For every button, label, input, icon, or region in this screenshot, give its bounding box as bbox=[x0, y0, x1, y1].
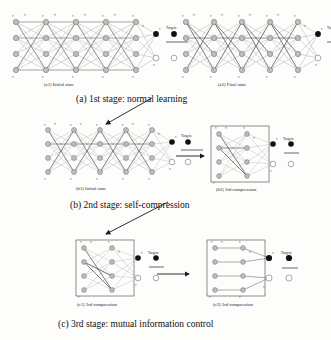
panel-a1-caption: (a1) Initial state bbox=[44, 83, 74, 88]
node-label: v bbox=[182, 75, 184, 79]
node-label: v bbox=[72, 75, 74, 79]
weight-label: w bbox=[105, 121, 109, 126]
target-nodes bbox=[327, 31, 331, 61]
node-label: v bbox=[238, 75, 240, 79]
weight-label: w bbox=[117, 249, 121, 254]
output-nodes bbox=[169, 139, 175, 165]
weight-label: w bbox=[131, 121, 135, 126]
node-label: v bbox=[213, 181, 215, 185]
node-label: v bbox=[70, 177, 72, 181]
node-label: v bbox=[148, 177, 150, 181]
nodes bbox=[46, 128, 155, 175]
weight-label: w bbox=[53, 121, 57, 126]
panel-a1: w w w w w v v v v v v v v v v v v Target… bbox=[6, 8, 164, 80]
targets-label: Targets bbox=[327, 26, 331, 30]
figure-root: w w w w w v v v v v v v v v v v v Target… bbox=[0, 0, 331, 340]
node-label: v bbox=[266, 14, 268, 18]
node-label: v bbox=[294, 14, 296, 18]
node-label: v bbox=[211, 240, 213, 244]
node-label: v bbox=[210, 75, 212, 79]
panel-b1: w w w w w v v v v v v v v v v v v Target… bbox=[40, 118, 190, 184]
node-label: v bbox=[210, 14, 212, 18]
node-label: v bbox=[315, 63, 317, 67]
panel-b2: w w v v v v v Targets bbox=[207, 120, 303, 186]
output-nodes bbox=[135, 255, 141, 281]
node-label: v bbox=[102, 14, 104, 18]
panel-b2-caption: (b2) 3rd compression bbox=[216, 188, 256, 193]
weight-label: w bbox=[220, 12, 224, 17]
targets-label: Targets bbox=[166, 26, 177, 30]
panel-c1-network: w w v v v v v Targets bbox=[72, 234, 168, 300]
node-label: v bbox=[70, 123, 72, 127]
node-label: v bbox=[80, 240, 82, 244]
node-label: v bbox=[276, 137, 278, 141]
node-labels: v v v v v v v v v v v v bbox=[182, 14, 323, 79]
node-label: v bbox=[44, 177, 46, 181]
node-label: v bbox=[141, 251, 143, 255]
node-label: v bbox=[239, 240, 241, 244]
nodes bbox=[213, 246, 246, 293]
panel-a2: w w w w w v v v v v v v v v v v v Target… bbox=[178, 8, 328, 80]
labels: w w v v v v v Targets bbox=[213, 125, 294, 185]
arrow-b1-to-b2 bbox=[176, 150, 210, 162]
weight-label: w bbox=[83, 12, 87, 17]
node-label: v bbox=[243, 126, 245, 130]
node-label: v bbox=[96, 123, 98, 127]
node-label: v bbox=[153, 63, 155, 67]
panel-a2-caption: (a2) Final state bbox=[218, 83, 246, 88]
node-label: v bbox=[270, 169, 272, 173]
targets-label: Targets bbox=[283, 137, 294, 141]
target-nodes bbox=[282, 255, 298, 281]
node-label: v bbox=[132, 75, 134, 79]
targets-label: Targets bbox=[181, 134, 192, 138]
weight-label: w bbox=[276, 12, 280, 17]
panel-c1: w w v v v v v Targets bbox=[72, 234, 168, 300]
edges-light bbox=[48, 130, 172, 172]
edges-dark bbox=[16, 22, 136, 70]
node-label: v bbox=[215, 126, 217, 130]
edges-light bbox=[219, 134, 273, 176]
targets-label: Targets bbox=[281, 251, 292, 255]
panel-b2-network: w w v v v v v Targets bbox=[207, 120, 303, 186]
nodes bbox=[183, 19, 300, 72]
arrow-stage2-to-stage3 bbox=[96, 200, 174, 238]
edges-light bbox=[186, 22, 318, 70]
output-nodes bbox=[266, 255, 272, 281]
weight-label: w bbox=[248, 12, 252, 17]
node-label: v bbox=[182, 14, 184, 18]
node-label: v bbox=[122, 177, 124, 181]
panel-c1-caption: (c1) 3rd compression bbox=[77, 303, 117, 308]
panel-b1-caption: (b1) Initial state bbox=[76, 187, 106, 192]
panel-c2-network: w w v v v v v v Targets bbox=[203, 234, 303, 300]
weight-label: w bbox=[79, 121, 83, 126]
node-label: v bbox=[122, 123, 124, 127]
labels: w w v v v v v Targets bbox=[78, 239, 159, 299]
panel-b1-network: w w w w w v v v v v v v v v v v v Target… bbox=[40, 118, 190, 184]
node-label: v bbox=[272, 251, 274, 255]
node-label: v bbox=[12, 75, 14, 79]
node-label: v bbox=[159, 27, 161, 31]
panel-c2: w w v v v v v v Targets bbox=[203, 234, 303, 300]
node-label: v bbox=[209, 295, 211, 299]
stage-c-caption: (c) 3rd stage: mutual information contro… bbox=[58, 320, 213, 330]
node-label: v bbox=[148, 123, 150, 127]
node-label: v bbox=[169, 167, 171, 171]
node-label: v bbox=[42, 14, 44, 18]
arrow-c1-to-c2 bbox=[157, 268, 195, 280]
node-label: v bbox=[238, 14, 240, 18]
output-nodes bbox=[270, 141, 276, 167]
weight-label: w bbox=[252, 135, 256, 140]
targets-label: Targets bbox=[148, 251, 159, 255]
weight-label: w bbox=[23, 12, 27, 17]
node-label: v bbox=[42, 75, 44, 79]
panel-a2-network: w w w w w v v v v v v v v v v v v Target… bbox=[178, 8, 328, 80]
node-label: v bbox=[266, 75, 268, 79]
weight-label: w bbox=[53, 12, 57, 17]
node-label: v bbox=[78, 295, 80, 299]
edges-light bbox=[84, 248, 138, 290]
node-label: v bbox=[12, 14, 14, 18]
edges-dark bbox=[48, 130, 152, 172]
node-label: v bbox=[108, 240, 110, 244]
weight-label: w bbox=[192, 12, 196, 17]
output-nodes bbox=[315, 31, 321, 61]
